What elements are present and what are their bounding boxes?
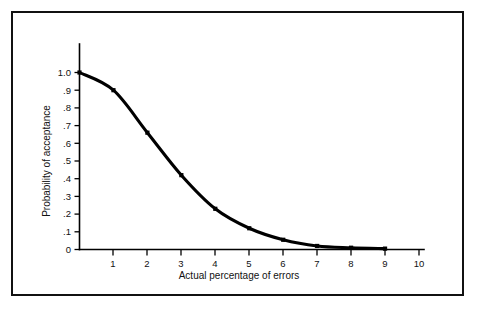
x-tick-label: 9 — [382, 258, 387, 269]
x-tick-label: 6 — [280, 258, 285, 269]
data-point-marker — [111, 88, 115, 92]
y-tick-label: 1.0 — [58, 67, 71, 78]
data-point-markers — [77, 70, 387, 250]
x-tick-label: 5 — [246, 258, 251, 269]
data-point-marker — [179, 173, 183, 177]
data-point-marker — [145, 131, 149, 135]
data-point-marker — [77, 70, 81, 74]
data-point-marker — [247, 226, 251, 230]
data-point-marker — [383, 247, 387, 251]
x-axis-ticks — [113, 250, 419, 256]
data-point-marker — [281, 238, 285, 242]
y-tick-label: .9 — [63, 85, 71, 96]
chart-svg: 0 .1 .2 .3 .4 .5 .6 .7 .8 .9 1.0 — [0, 0, 480, 314]
x-tick-label: 8 — [348, 258, 353, 269]
y-tick-label: .3 — [63, 191, 71, 202]
plot-area: 0 .1 .2 .3 .4 .5 .6 .7 .8 .9 1.0 — [0, 0, 480, 314]
data-point-marker — [213, 207, 217, 211]
oc-curve-line — [80, 73, 386, 249]
x-tick-label: 1 — [110, 258, 115, 269]
y-tick-label: .5 — [63, 155, 71, 166]
x-tick-label: 4 — [212, 258, 217, 269]
y-tick-label: .4 — [63, 173, 71, 184]
x-tick-label: 2 — [144, 258, 149, 269]
y-axis-tick-labels: 0 .1 .2 .3 .4 .5 .6 .7 .8 .9 1.0 — [58, 67, 71, 255]
y-tick-label: .2 — [63, 208, 71, 219]
y-tick-label: .6 — [63, 138, 71, 149]
figure-root: 0 .1 .2 .3 .4 .5 .6 .7 .8 .9 1.0 — [0, 0, 480, 314]
x-tick-label: 7 — [314, 258, 319, 269]
x-tick-label: 10 — [414, 258, 425, 269]
y-tick-label: .7 — [63, 120, 71, 131]
x-tick-label: 3 — [178, 258, 183, 269]
x-axis-title: Actual percentage of errors — [179, 270, 300, 281]
y-tick-label: 0 — [66, 244, 71, 255]
data-point-marker — [315, 244, 319, 248]
data-point-marker — [349, 246, 353, 250]
x-axis-tick-labels: 1 2 3 4 5 6 7 8 9 10 — [110, 258, 424, 269]
y-tick-label: .1 — [63, 226, 71, 237]
y-tick-label: .8 — [63, 102, 71, 113]
y-axis-title: Probability of acceptance — [41, 105, 52, 217]
